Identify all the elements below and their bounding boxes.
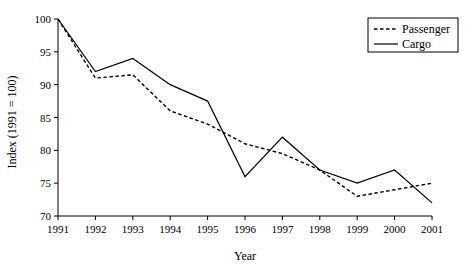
y-tick-label: 100	[35, 13, 52, 25]
x-tick-label: 1991	[47, 223, 69, 235]
y-tick-label: 70	[40, 210, 52, 222]
y-tick-label: 85	[40, 112, 52, 124]
x-axis-tick-labels: 1991199219931994199519961997199819992000…	[47, 223, 443, 235]
x-axis-title: Year	[234, 249, 256, 263]
y-axis-title: Index (1991 = 100)	[5, 75, 19, 168]
y-tick-label: 95	[40, 46, 52, 58]
x-tick-label: 1999	[346, 223, 369, 235]
x-tick-label: 2001	[421, 223, 443, 235]
legend-label-cargo: Cargo	[402, 37, 431, 51]
legend-label-passenger: Passenger	[402, 22, 450, 36]
x-tick-label: 1995	[197, 223, 220, 235]
x-tick-label: 1992	[84, 223, 106, 235]
chart-canvas: 707580859095100 199119921993199419951996…	[0, 0, 469, 267]
x-tick-label: 1993	[122, 223, 145, 235]
x-tick-label: 1997	[271, 223, 294, 235]
line-chart: 707580859095100 199119921993199419951996…	[0, 0, 469, 267]
x-tick-label: 1996	[234, 223, 257, 235]
x-tick-label: 2000	[384, 223, 407, 235]
y-tick-label: 80	[40, 144, 52, 156]
x-tick-label: 1998	[309, 223, 332, 235]
chart-legend: PassengerCargo	[368, 18, 458, 52]
y-tick-label: 75	[40, 177, 52, 189]
x-tick-label: 1994	[159, 223, 182, 235]
y-tick-label: 90	[40, 79, 52, 91]
